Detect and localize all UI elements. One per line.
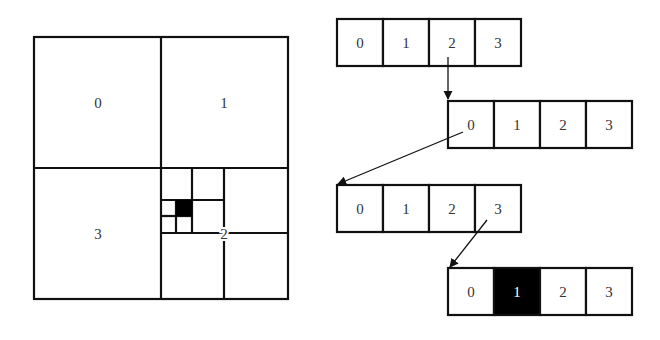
cell-label: 3 xyxy=(605,117,613,133)
quadrant-label-2: 2 xyxy=(220,226,228,242)
quadrant-label-0: 0 xyxy=(94,95,102,111)
cell-label: 0 xyxy=(467,284,475,300)
node-array-level-3: 0 1 2 3 xyxy=(448,268,632,315)
quadrant-label-3: 3 xyxy=(94,226,102,242)
cell-label: 0 xyxy=(356,201,364,217)
node-array-root: 0 1 2 3 xyxy=(337,19,521,66)
node-array-level-2: 0 1 2 3 xyxy=(337,185,521,232)
cell-label: 2 xyxy=(559,117,567,133)
pointer-arrow-level-1-to-level-2 xyxy=(338,132,463,184)
quadtree-grid: 0 1 2 3 xyxy=(34,37,288,299)
cell-label: 2 xyxy=(448,35,456,51)
quadtree-diagram: 0 1 2 3 0 1 2 3 0 1 2 3 0 1 2 3 xyxy=(0,0,660,340)
quadrant-label-1: 1 xyxy=(220,95,228,111)
node-array-level-1: 0 1 2 3 xyxy=(448,101,632,148)
cell-label: 2 xyxy=(559,284,567,300)
cell-label: 3 xyxy=(494,35,502,51)
cell-label: 1 xyxy=(402,35,410,51)
cell-label: 1 xyxy=(513,117,521,133)
cell-label: 3 xyxy=(494,201,502,217)
cell-label: 0 xyxy=(467,117,475,133)
cell-label: 3 xyxy=(605,284,613,300)
filled-leaf-cell xyxy=(176,200,192,216)
cell-label: 2 xyxy=(448,201,456,217)
cell-label: 0 xyxy=(356,35,364,51)
cell-label: 1 xyxy=(513,284,521,300)
cell-label: 1 xyxy=(402,201,410,217)
